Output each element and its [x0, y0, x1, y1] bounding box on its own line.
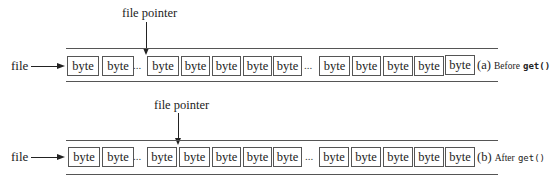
- byte-cell: byte: [67, 56, 99, 76]
- arrow-right-icon: [57, 154, 65, 160]
- ellipsis: ...: [305, 150, 313, 162]
- file-pointer-label-a: file pointer: [122, 6, 177, 21]
- caption-text-a: Before: [494, 61, 520, 71]
- byte-cell: byte: [383, 56, 413, 76]
- byte-cell: byte: [414, 147, 444, 167]
- byte-cell: byte: [102, 147, 134, 167]
- caption-text-b: After: [495, 153, 515, 163]
- byte-cell: byte: [243, 147, 272, 167]
- byte-cell: byte: [352, 56, 381, 76]
- byte-cell: byte: [414, 56, 444, 76]
- caption-letter-a: (a): [477, 58, 491, 72]
- byte-cell: byte: [319, 147, 349, 167]
- stream-top-line-a: [66, 48, 498, 49]
- caption-b: (b) After get(): [477, 150, 545, 165]
- byte-cell: byte: [212, 147, 241, 167]
- byte-cell-current: byte: [147, 56, 179, 76]
- caption-letter-b: (b): [477, 150, 492, 164]
- caption-code-b: get(): [518, 153, 545, 163]
- file-arrow-b: [31, 157, 59, 158]
- caption-a: (a) Before get(): [477, 58, 550, 73]
- byte-cell: byte: [212, 56, 241, 76]
- ellipsis: ...: [133, 150, 141, 162]
- file-label-b: file: [11, 149, 28, 165]
- byte-cell: byte: [102, 56, 134, 76]
- arrow-down-icon: [143, 48, 149, 55]
- ellipsis: ...: [304, 59, 312, 71]
- arrow-right-icon: [57, 63, 65, 69]
- byte-cell: byte: [147, 147, 177, 167]
- byte-cell: byte: [68, 147, 100, 167]
- stream-top-line-b: [66, 140, 498, 141]
- byte-cell: byte: [445, 55, 475, 75]
- file-pointer-label-b: file pointer: [154, 98, 209, 113]
- byte-cell: byte: [351, 147, 381, 167]
- file-pointer-arrow-b: [178, 113, 179, 140]
- file-pointer-arrow-a: [146, 22, 147, 50]
- byte-cell: byte: [273, 147, 302, 167]
- byte-cell: byte: [181, 56, 210, 76]
- byte-cell: byte: [273, 56, 302, 76]
- byte-cell: byte: [445, 147, 475, 167]
- stream-bottom-line-b: [66, 174, 498, 175]
- byte-cell-current: byte: [179, 147, 210, 167]
- byte-cell: byte: [383, 147, 413, 167]
- file-arrow-a: [31, 66, 59, 67]
- file-label-a: file: [11, 58, 28, 74]
- stream-bottom-line-a: [66, 81, 498, 82]
- caption-code-a: get(): [523, 61, 550, 71]
- ellipsis: ...: [133, 59, 141, 71]
- byte-cell: byte: [243, 56, 272, 76]
- byte-cell: byte: [319, 56, 350, 76]
